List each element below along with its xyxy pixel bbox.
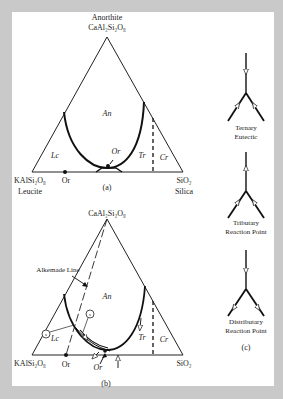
caption-c: (c) xyxy=(242,343,251,352)
field-or-b: Or xyxy=(94,363,104,372)
left-formula-b: KAlSi₂O₈ xyxy=(14,359,46,368)
or-label-a: Or xyxy=(62,176,71,185)
tr-boundary-arrow xyxy=(140,318,141,328)
field-lc-a: Lc xyxy=(50,151,59,160)
field-cr-b: Cr xyxy=(160,335,169,344)
ternary-diagram-a: Anorthite CaAl₂Si₂O₈ An Lc Or Tr Cr KAlS… xyxy=(14,13,193,196)
label-distributary-2: Reaction Point xyxy=(225,327,266,335)
field-tr-b: Tr xyxy=(138,333,146,342)
alkemade-line xyxy=(66,219,107,355)
label-tributary-1: Tributary xyxy=(233,219,260,227)
orthoclase-point-a xyxy=(63,170,67,174)
left-name-a: Leucite xyxy=(18,187,42,196)
field-lc-b: Lc xyxy=(50,334,59,343)
right-name-a: Silica xyxy=(175,187,194,196)
caption-a: (a) xyxy=(103,183,112,192)
field-cr-a: Cr xyxy=(160,153,169,162)
label-distributary-1: Distributary xyxy=(229,318,263,326)
left-formula-a: KAlSi₂O₈ xyxy=(14,176,46,185)
right-formula-b: SiO₂ xyxy=(176,359,191,368)
field-an-a: An xyxy=(102,109,112,118)
label-tributary-2: Reaction Point xyxy=(225,228,266,236)
apex-formula-a: CaAl₂Si₂O₈ xyxy=(88,23,126,32)
alkemade-label: Alkemade Line xyxy=(36,266,79,274)
right-formula-a: SiO₂ xyxy=(176,176,191,185)
or-point-b xyxy=(103,349,107,353)
distributary-reaction-glyph xyxy=(228,250,264,316)
reaction-point-types: Ternary Eutectic Tributary Reaction Poin… xyxy=(225,53,266,352)
or-field-boundary-a xyxy=(96,168,122,172)
ternary-diagram-b: CaAl₂Si₂O₈ Alkemade Line s s An Lc Or Tr… xyxy=(14,209,192,388)
svg-text:s: s xyxy=(89,312,91,317)
apex-name-a: Anorthite xyxy=(92,13,123,22)
label-ternary-eutectic-1: Ternary xyxy=(235,124,257,132)
apex-formula-b: CaAl₂Si₂O₈ xyxy=(88,209,126,218)
field-an-b: An xyxy=(102,292,112,301)
orthoclase-point-b xyxy=(64,353,68,357)
phase-diagram-figure: Anorthite CaAl₂Si₂O₈ An Lc Or Tr Cr KAlS… xyxy=(0,0,283,399)
ternary-eutectic-glyph xyxy=(228,53,264,121)
field-tr-a: Tr xyxy=(138,151,146,160)
or-point-a xyxy=(106,164,110,168)
tributary-reaction-glyph xyxy=(228,152,264,218)
or-label-b: Or xyxy=(62,360,71,369)
caption-b: (b) xyxy=(101,379,111,388)
field-or-a: Or xyxy=(112,147,122,156)
svg-text:s: s xyxy=(45,332,47,337)
label-ternary-eutectic-2: Eutectic xyxy=(235,133,258,141)
